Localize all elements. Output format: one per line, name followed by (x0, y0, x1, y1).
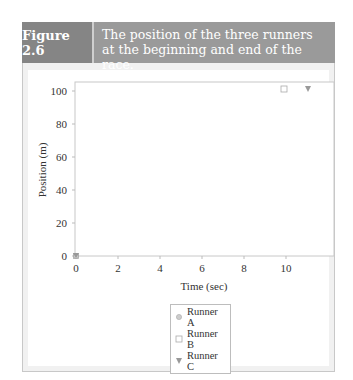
y-tick-label: 80 (56, 118, 68, 130)
legend-item-runner-a: Runner A (174, 306, 227, 328)
y-tick-label: 20 (56, 217, 68, 229)
legend-item-runner-b: Runner B (174, 328, 227, 350)
x-tick-label: 8 (241, 262, 247, 274)
x-axis: 0 2 4 6 8 10 (73, 256, 292, 274)
circle-marker-icon (174, 313, 184, 321)
x-tick-label: 0 (73, 262, 79, 274)
legend-label: Runner C (187, 350, 227, 372)
x-tick-label: 2 (115, 262, 121, 274)
plot-area (75, 82, 334, 256)
square-marker-icon (174, 335, 184, 343)
y-axis-label: Position (m) (36, 142, 49, 197)
x-tick-label: 6 (199, 262, 205, 274)
y-tick-label: 0 (62, 250, 68, 262)
x-tick-label: 4 (157, 262, 163, 274)
legend-item-runner-c: Runner C (174, 350, 227, 372)
chart-legend: Runner A Runner B Runner C (170, 304, 231, 374)
y-tick-label: 60 (56, 151, 68, 163)
y-axis: 0 20 40 60 80 100 (51, 85, 76, 262)
y-tick-label: 100 (51, 85, 68, 97)
y-tick-label: 40 (56, 184, 68, 196)
triangle-down-marker-icon (174, 357, 184, 365)
legend-label: Runner A (187, 306, 227, 328)
legend-label: Runner B (187, 328, 227, 350)
x-tick-label: 10 (281, 262, 293, 274)
x-axis-label: Time (sec) (181, 280, 228, 293)
